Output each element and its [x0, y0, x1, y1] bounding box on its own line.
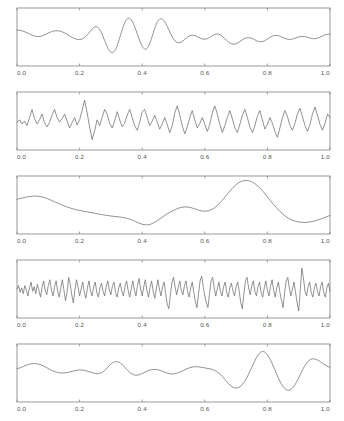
x-tick-label: 0.2: [75, 405, 85, 412]
x-tick-label: 0.6: [200, 321, 210, 328]
plot-panel-1: 0.00.20.40.60.81.0: [0, 7, 344, 85]
signal-trace: [17, 18, 330, 52]
x-tick-label: 0.6: [200, 237, 210, 244]
x-tick-label: 1.0: [321, 405, 331, 412]
multi-panel-signal-figure: 0.00.20.40.60.81.00.00.20.40.60.81.00.00…: [0, 0, 344, 421]
x-tick-label: 0.4: [138, 321, 148, 328]
x-tick-label: 0.8: [263, 321, 273, 328]
x-tick-label: 0.2: [75, 321, 85, 328]
x-tick-label: 1.0: [321, 153, 331, 160]
plot-panel-5: 0.00.20.40.60.81.0: [0, 343, 344, 421]
x-tick-label: 0.0: [17, 69, 27, 76]
x-tick-label: 0.4: [138, 153, 148, 160]
x-tick-label: 0.6: [200, 69, 210, 76]
x-tick-label: 0.0: [17, 405, 27, 412]
x-tick-label: 0.8: [263, 405, 273, 412]
x-tick-label: 0.0: [17, 321, 27, 328]
plot-frame: [17, 176, 330, 234]
x-tick-label: 0.4: [138, 237, 148, 244]
x-tick-label: 0.8: [263, 153, 273, 160]
plot-panel-4: 0.00.20.40.60.81.0: [0, 259, 344, 337]
x-tick-label: 1.0: [321, 69, 331, 76]
x-tick-label: 0.8: [263, 237, 273, 244]
x-tick-label: 0.2: [75, 237, 85, 244]
x-tick-label: 0.2: [75, 69, 85, 76]
x-tick-label: 1.0: [321, 321, 331, 328]
signal-trace: [17, 268, 330, 311]
x-tick-label: 0.4: [138, 69, 148, 76]
plot-panel-2: 0.00.20.40.60.81.0: [0, 91, 344, 169]
x-tick-label: 0.8: [263, 69, 273, 76]
plot-frame: [17, 8, 330, 66]
x-tick-label: 0.0: [17, 153, 27, 160]
plot-panel-3: 0.00.20.40.60.81.0: [0, 175, 344, 253]
signal-trace: [17, 181, 330, 225]
x-tick-label: 0.4: [138, 405, 148, 412]
x-tick-label: 0.2: [75, 153, 85, 160]
signal-trace: [17, 351, 330, 390]
x-tick-label: 0.6: [200, 153, 210, 160]
signal-trace: [17, 100, 330, 139]
x-tick-label: 0.6: [200, 405, 210, 412]
x-tick-label: 0.0: [17, 237, 27, 244]
x-tick-label: 1.0: [321, 237, 331, 244]
